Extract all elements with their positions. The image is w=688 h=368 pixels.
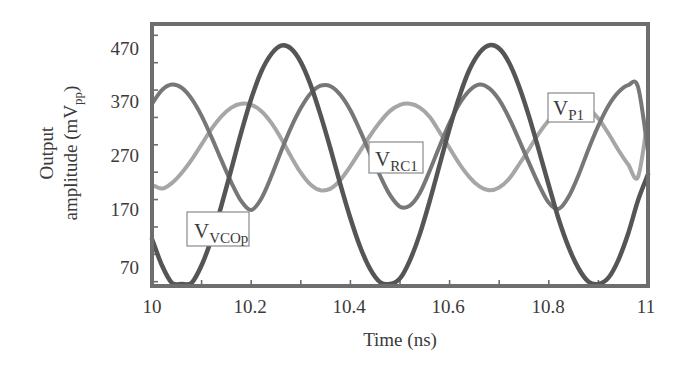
series-label-v-rc1: VRC1 [369, 142, 423, 174]
x-tick-label: 10 [143, 296, 162, 317]
y-axis-title-main: amplitude (mV [60, 105, 82, 221]
y-axis-title-close: ) [60, 86, 82, 92]
x-axis-title: Time (ns) [363, 329, 437, 351]
line-chart: 70 170 270 370 470 10 10.2 10.4 10.6 10.… [0, 0, 688, 368]
x-tick-label: 10.8 [531, 296, 564, 317]
y-axis-title-line1: Output [36, 126, 57, 180]
series-label-v-p1: VP1 [548, 93, 594, 123]
y-axis-title-sub: pp [70, 92, 85, 105]
y-tick-label: 170 [111, 199, 140, 220]
x-tick-label: 11 [637, 296, 655, 317]
y-tick-label: 370 [111, 91, 140, 112]
y-axis-tick-labels: 70 170 270 370 470 [111, 38, 140, 278]
y-tick-label: 270 [111, 145, 140, 166]
x-tick-label: 10.2 [233, 296, 266, 317]
y-tick-label: 70 [120, 257, 139, 278]
y-tick-label: 470 [111, 38, 140, 59]
series-label-v-vcop: VVCOp [187, 212, 249, 246]
y-axis-title-line2: amplitude (mVpp) [60, 86, 85, 221]
x-axis-tick-labels: 10 10.2 10.4 10.6 10.8 11 [143, 296, 656, 317]
x-tick-label: 10.6 [431, 296, 464, 317]
y-axis-title: Output amplitude (mVpp) [36, 86, 85, 221]
x-tick-label: 10.4 [332, 296, 366, 317]
